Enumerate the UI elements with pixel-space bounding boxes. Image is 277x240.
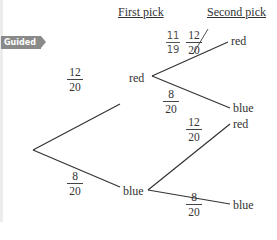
branch-root-red [33,104,120,150]
prob-blue-blue: 820 [186,191,202,218]
prob-red-red-correction: 1119 [166,30,180,55]
numerator: 8 [191,191,197,203]
prob-root-blue: 820 [67,170,83,197]
node-blue-blue: blue [233,199,254,211]
prob-red-blue: 820 [163,88,179,115]
denominator: 20 [188,44,200,56]
node-first-blue: blue [123,185,144,197]
numerator: 8 [72,170,78,182]
numerator: 11 [167,30,180,41]
denominator: 20 [188,206,200,218]
node-red-blue: blue [233,102,254,114]
node-blue-red: red [233,118,248,130]
numerator: 8 [168,88,174,100]
prob-red-red-crossed: 1220 [186,29,202,56]
denominator: 19 [167,44,180,55]
denominator: 20 [69,185,81,197]
prob-root-red: 1220 [67,66,83,93]
prob-blue-red: 1220 [186,116,202,143]
numerator: 12 [188,29,200,41]
denominator: 20 [69,81,81,93]
numerator: 12 [188,116,200,128]
denominator: 20 [165,103,177,115]
node-first-red: red [129,72,144,84]
node-red-red: red [231,35,246,47]
denominator: 20 [188,131,200,143]
numerator: 12 [69,66,81,78]
